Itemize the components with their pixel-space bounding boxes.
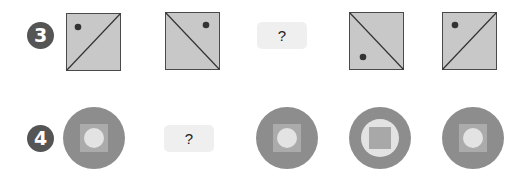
row-3-figure-1[interactable] [66, 13, 121, 71]
inner-circle-icon [84, 128, 104, 148]
row-3-figure-5[interactable] [442, 12, 497, 70]
row-4-figure-3[interactable] [256, 107, 318, 169]
row-3-figure-4[interactable] [349, 12, 404, 70]
row-4-figure-4[interactable] [349, 107, 411, 169]
row-4-figure-1[interactable] [63, 107, 125, 169]
square-diagonal-dot-icon [165, 12, 220, 70]
row-3-figure-2[interactable] [165, 12, 220, 70]
row-4-missing-figure-placeholder[interactable]: ? [164, 125, 214, 152]
row-4-number-badge: 4 [27, 125, 54, 152]
square-diagonal-dot-icon [349, 12, 404, 70]
inner-circle-icon [277, 128, 297, 148]
row-4-figure-5[interactable] [442, 107, 504, 169]
square-diagonal-dot-icon [442, 12, 497, 70]
square-diagonal-dot-icon [66, 13, 121, 71]
inner-circle-icon [463, 128, 483, 148]
row-3-number-badge: 3 [27, 22, 54, 49]
row-3-missing-figure-placeholder[interactable]: ? [257, 22, 307, 49]
inner-square-icon [369, 127, 391, 149]
